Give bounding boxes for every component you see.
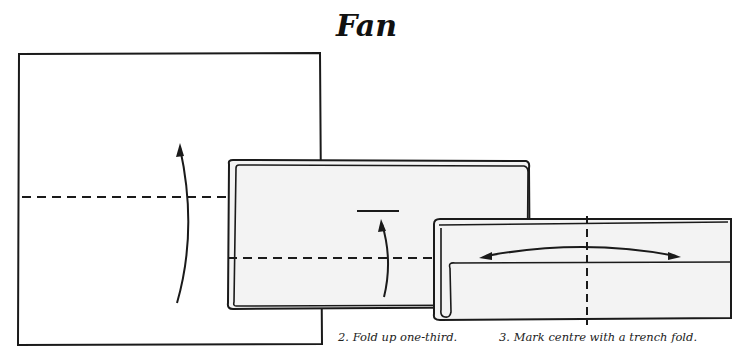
fold-diagram [0,0,733,361]
step-2-caption: 2. Fold up one-third. [338,330,457,344]
step-3-caption: 3. Mark centre with a trench fold. [499,330,697,344]
step-3-folded-strip [434,219,731,320]
